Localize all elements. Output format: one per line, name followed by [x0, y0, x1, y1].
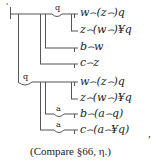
- formula-3: b⌢w: [80, 41, 103, 53]
- formula-7: b⌢(a⌢q): [80, 108, 123, 120]
- concavity-label-top: q: [55, 4, 60, 12]
- formula-5: w⌢(z⌢)q: [80, 76, 125, 88]
- trailing-comma: ,: [148, 127, 151, 139]
- begriffsschrift-strokes: [0, 0, 156, 163]
- formula-2: z⌢(w⌢)¥q: [80, 24, 132, 36]
- judgment-mark: ': [6, 2, 8, 10]
- concavity-label-b: a: [56, 105, 61, 113]
- formula-4: c⌢z: [80, 57, 99, 69]
- formula-1: w⌢(z⌢)q: [80, 7, 125, 19]
- caption: (Compare §66, η.): [30, 145, 111, 157]
- formula-8: c⌢(a⌢¥q): [80, 124, 129, 136]
- concavity-label-middle: q: [23, 73, 28, 81]
- concavity-label-c: a: [56, 121, 61, 129]
- middle-content-stroke: [18, 82, 78, 85]
- formula-6: z⌢(w⌢)¥q: [80, 92, 132, 104]
